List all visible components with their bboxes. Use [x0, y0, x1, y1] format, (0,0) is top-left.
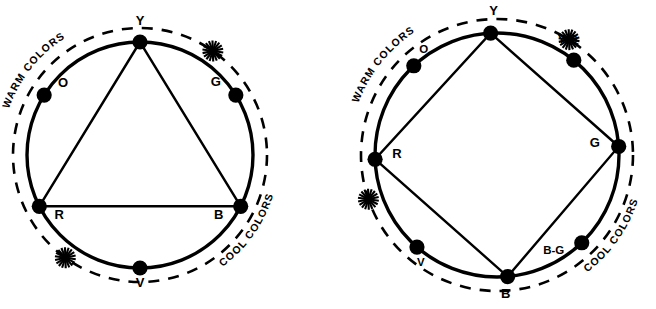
hue-dot-bg[interactable]	[574, 235, 589, 250]
hue-dot-y[interactable]	[132, 34, 147, 49]
hue-label-b: B	[501, 286, 510, 301]
hue-dot-v[interactable]	[132, 260, 147, 275]
hue-label-g: G	[590, 135, 600, 150]
hue-label-b: B	[214, 207, 223, 222]
color-wheel-figure: WARM COLORSCOOL COLORSYGBVROWARM COLORSC…	[0, 0, 656, 309]
hue-dot-b[interactable]	[233, 199, 248, 214]
hue-label-r: R	[55, 207, 65, 222]
hue-dot-v[interactable]	[409, 239, 424, 254]
hue-label-o: O	[419, 43, 428, 55]
hue-dot-y[interactable]	[483, 26, 498, 41]
hue-dot-yg[interactable]	[566, 53, 581, 68]
hue-label-o: O	[58, 75, 68, 90]
hue-label-g: G	[211, 74, 221, 89]
hue-dot-o[interactable]	[406, 58, 421, 73]
hue-label-bg: B-G	[543, 244, 564, 256]
hue-label-y: Y	[489, 3, 498, 18]
hue-label-v: V	[136, 275, 145, 290]
hue-dot-g[interactable]	[228, 88, 243, 103]
hue-label-r: R	[392, 146, 402, 161]
hue-dot-r[interactable]	[367, 152, 382, 167]
hue-dot-r[interactable]	[32, 199, 47, 214]
hue-label-v: V	[417, 256, 425, 268]
hue-dot-b[interactable]	[500, 269, 515, 284]
hue-label-y: Y	[136, 13, 145, 28]
hue-dot-o[interactable]	[37, 88, 52, 103]
figure-canvas: WARM COLORSCOOL COLORSYGBVROWARM COLORSC…	[0, 0, 656, 309]
hue-label-yg: Y-G	[558, 33, 578, 45]
hue-dot-g[interactable]	[611, 139, 626, 154]
